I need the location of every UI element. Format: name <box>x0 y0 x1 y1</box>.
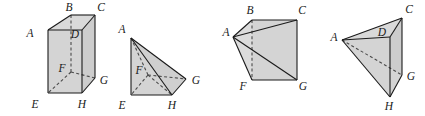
pyramid3-vertex-label-b: B <box>246 4 253 16</box>
pyramid4-vertex-label-c: C <box>405 3 413 15</box>
pyramid3-vertex-label-c: C <box>298 4 306 16</box>
cube-vertex-label-d: D <box>70 28 80 40</box>
figure-pyramid-abcgf: A B C F G <box>221 4 307 92</box>
pyramid3-vertex-label-f: F <box>238 80 247 92</box>
cube-vertex-label-f: F <box>57 62 66 74</box>
pyramid3-vertex-label-a: A <box>221 26 230 38</box>
pyramid1-vertex-label-f: F <box>134 64 143 76</box>
pyramid4-vertex-label-g: G <box>407 70 416 82</box>
cube-vertex-label-a: A <box>25 27 34 39</box>
cube-vertex-label-g: G <box>100 74 109 86</box>
pyramid1-vertex-label-g: G <box>192 74 201 86</box>
pyramid4-vertex-label-h: H <box>384 100 394 112</box>
pyramid4-vertex-label-d: D <box>377 26 387 38</box>
cube-vertex-label-c: C <box>97 1 105 13</box>
cube-vertex-label-h: H <box>77 98 87 110</box>
pyramid3-face-bcgf <box>252 20 297 80</box>
geometry-figure-board: A B C D E F G H A E <box>0 0 425 116</box>
cube-vertex-label-e: E <box>30 98 38 110</box>
geometry-diagram-svg: A B C D E F G H A E <box>0 0 425 116</box>
pyramid3-vertex-label-g: G <box>299 80 308 92</box>
pyramid4-vertex-label-a: A <box>329 31 338 43</box>
pyramid1-vertex-label-h: H <box>167 99 177 111</box>
figure-cube: A B C D E F G H <box>25 1 108 110</box>
figure-pyramid-aefgh: A E F G H <box>117 23 200 111</box>
figure-pyramid-acdgh: A C D G H <box>329 3 415 112</box>
pyramid1-vertex-label-a: A <box>117 23 126 35</box>
pyramid1-vertex-label-e: E <box>117 99 125 111</box>
cube-vertex-label-b: B <box>65 1 72 13</box>
